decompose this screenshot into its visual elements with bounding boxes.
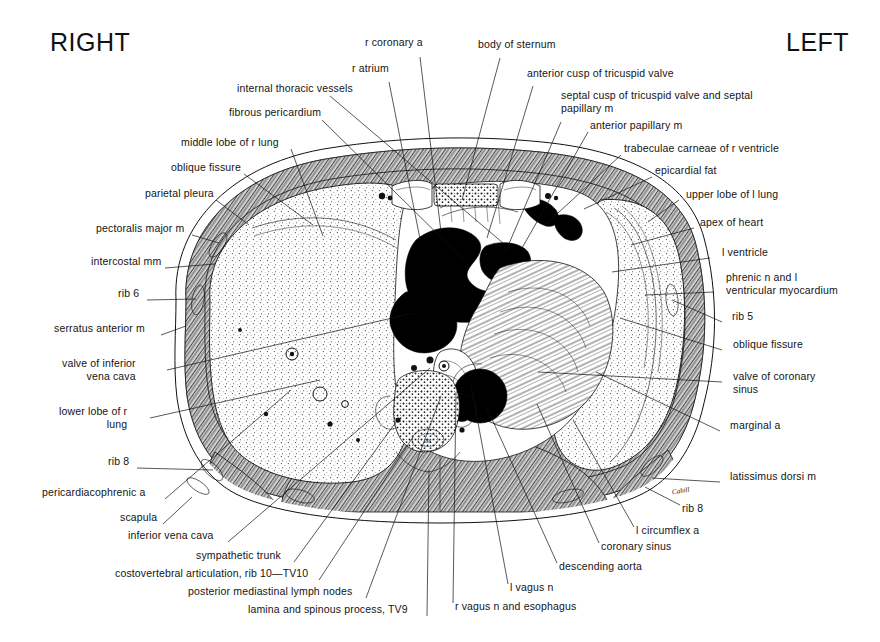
callout-text: scapula <box>120 511 157 523</box>
callout-text-line2: lung <box>107 418 127 430</box>
callout-text: apex of heart <box>700 216 763 228</box>
callout-text: oblique fissure <box>171 161 241 173</box>
callout-text: phrenic n and l <box>726 271 797 283</box>
callout-latissimus-dorsi-m: latissimus dorsi m <box>730 470 816 483</box>
leader-oblique-fissure-r <box>244 174 313 225</box>
callout-coronary-sinus: coronary sinus <box>601 540 671 553</box>
callout-text: descending aorta <box>559 560 642 572</box>
callout-text: rib 8 <box>108 455 129 467</box>
leader-latissimus-dorsi-m <box>652 478 720 482</box>
callout-text: sympathetic trunk <box>196 549 281 561</box>
leader-anterior-papillary-m <box>522 132 588 248</box>
callout-septal-cusp-of-tricuspid-valve: septal cusp of tricuspid valve and septa… <box>561 89 753 114</box>
callout-scapula: scapula <box>120 511 157 524</box>
leader-l-vagus-n <box>471 385 508 584</box>
leader-l-circumflex-a <box>573 420 634 527</box>
leader-apex-of-heart <box>631 228 694 245</box>
callout-l-ventricle: l ventricle <box>722 246 768 259</box>
callout-valve-of-coronary-sinus: valve of coronarysinus <box>733 370 816 395</box>
callout-text: coronary sinus <box>601 540 671 552</box>
svg-text:M: M <box>425 437 432 445</box>
callout-text: posterior mediastinal lymph nodes <box>188 585 352 597</box>
posterior-mediastinal-structures <box>395 357 464 433</box>
callout-internal-thoracic-vessels: internal thoracic vessels <box>237 82 353 95</box>
callout-rib-6: rib 6 <box>118 287 139 300</box>
mediastinum <box>394 181 619 461</box>
leader-pectoralis-major-m <box>192 235 219 243</box>
callout-text: internal thoracic vessels <box>237 82 353 94</box>
callout-body-of-sternum: body of sternum <box>478 38 556 51</box>
leader-sympathetic-trunk <box>294 418 399 562</box>
leader-inferior-vena-cava <box>228 368 430 542</box>
callout-anterior-papillary-m: anterior papillary m <box>590 119 682 132</box>
leader-valve-of-coronary-sinus <box>538 372 722 382</box>
callout-rib-8-right: rib 8 <box>682 502 703 515</box>
leader-rib-5 <box>672 300 722 322</box>
leader-posterior-mediastinal-lymph-nodes <box>366 396 441 598</box>
leader-epicardial-fat <box>584 177 652 209</box>
callout-text: pericardiacophrenic a <box>42 486 146 498</box>
callout-r-coronary-a: r coronary a <box>365 36 423 49</box>
left-ventricular-myocardium <box>459 260 613 429</box>
vertebra: M <box>376 371 477 473</box>
callout-sympathetic-trunk: sympathetic trunk <box>196 549 281 562</box>
callout-text: septal cusp of tricuspid valve and septa… <box>561 89 753 101</box>
callout-l-vagus-n: l vagus n <box>510 581 553 594</box>
callout-text: inferior vena cava <box>128 529 214 541</box>
callout-text: pectoralis major m <box>96 222 184 234</box>
leader-anterior-cusp-of-tricuspid-valve <box>487 86 533 238</box>
leader-upper-lobe-of-l-lung <box>648 200 679 222</box>
ribs <box>189 230 679 506</box>
leader-phrenic-n-and-l-ventricular-myocardium <box>645 292 714 295</box>
leader-septal-cusp-of-tricuspid-valve <box>505 122 561 253</box>
leader-costovertebral-articulation <box>319 437 413 580</box>
leader-parietal-pleura <box>216 200 249 225</box>
leader-pericardiacophrenic-a <box>165 390 291 499</box>
leader-r-vagus-n-and-esophagus <box>453 392 456 603</box>
callout-middle-lobe-of-r-lung: middle lobe of r lung <box>181 136 279 149</box>
orientation-label-right: RIGHT <box>50 28 130 57</box>
callout-text: trabeculae carneae of r ventricle <box>624 142 779 154</box>
callout-oblique-fissure-r: oblique fissure <box>171 161 241 174</box>
callout-serratus-anterior-m: serratus anterior m <box>54 322 145 335</box>
leader-rib-8-left <box>137 468 213 470</box>
callout-text: costovertebral articulation, rib 10—TV10 <box>115 567 308 579</box>
leader-l-ventricle <box>612 258 710 272</box>
leader-body-of-sternum <box>462 58 500 200</box>
callout-text: anterior papillary m <box>590 119 682 131</box>
leader-trabeculae-carneae <box>545 155 621 225</box>
callout-text: l ventricle <box>722 246 768 258</box>
callout-text-line2: ventricular myocardium <box>726 284 838 296</box>
callout-text: lower lobe of r <box>59 405 127 417</box>
descending-aorta-lumen <box>452 364 507 423</box>
callout-text: intercostal mm <box>91 255 161 267</box>
callout-inferior-vena-cava: inferior vena cava <box>128 529 214 542</box>
leader-marginal-a <box>596 372 720 431</box>
callout-valve-of-inferior-vena-cava: valve of inferiorvena cava <box>62 357 136 382</box>
right-lung <box>210 183 429 483</box>
leader-descending-aorta <box>487 408 557 563</box>
callout-text: l vagus n <box>510 581 553 593</box>
callout-pericardiacophrenic-a: pericardiacophrenic a <box>42 486 146 499</box>
callout-text: rib 8 <box>682 502 703 514</box>
callout-oblique-fissure-l: oblique fissure <box>733 338 803 351</box>
callout-text: latissimus dorsi m <box>730 470 816 482</box>
callout-pectoralis-major-m: pectoralis major m <box>96 222 184 235</box>
anatomy-figure-page: M <box>0 0 880 642</box>
callout-parietal-pleura: parietal pleura <box>145 187 214 200</box>
leader-internal-thoracic-vessels <box>330 96 503 243</box>
leader-rib-6 <box>147 299 196 300</box>
coronary-sinus-vessel <box>433 349 478 422</box>
leader-valve-of-inferior-vena-cava <box>167 313 414 370</box>
callout-text: rib 6 <box>118 287 139 299</box>
left-lung <box>552 199 684 470</box>
internal-thoracic-vessels-detail <box>379 193 558 201</box>
callout-rib-8-left: rib 8 <box>108 455 129 468</box>
callout-text: body of sternum <box>478 38 556 50</box>
scapula-detail <box>184 475 211 498</box>
callout-intercostal-mm: intercostal mm <box>91 255 161 268</box>
callout-upper-lobe-of-l-lung: upper lobe of l lung <box>686 188 778 201</box>
callout-text: epicardial fat <box>655 164 717 176</box>
leader-coronary-sinus <box>537 404 599 543</box>
callout-text: valve of inferior <box>62 357 136 369</box>
